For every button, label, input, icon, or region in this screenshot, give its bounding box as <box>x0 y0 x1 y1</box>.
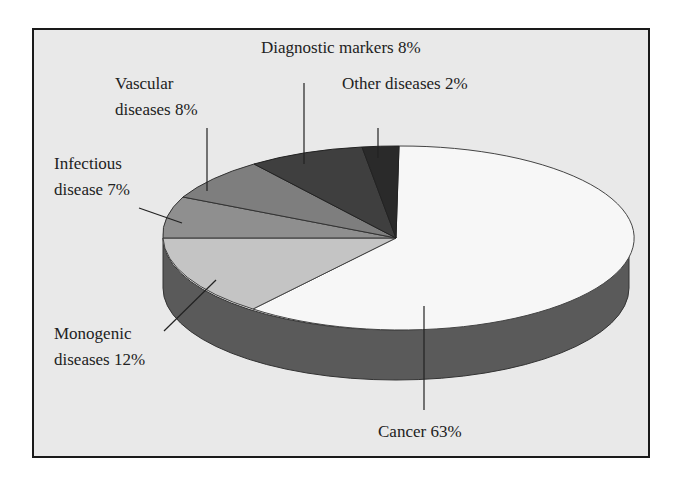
label-monogenic-line2: diseases 12% <box>54 346 145 373</box>
label-other-diseases: Other diseases 2% <box>342 70 468 97</box>
label-monogenic-line1: Monogenic <box>54 320 131 347</box>
label-infectious-line1: Infectious <box>54 150 122 177</box>
pie-chart-3d <box>0 0 675 485</box>
label-infectious-line2: disease 7% <box>54 176 130 203</box>
label-vascular-line1: Vascular <box>115 70 174 97</box>
label-cancer: Cancer 63% <box>378 418 462 445</box>
label-diagnostic-markers: Diagnostic markers 8% <box>261 34 421 61</box>
label-vascular-line2: diseases 8% <box>115 96 198 123</box>
